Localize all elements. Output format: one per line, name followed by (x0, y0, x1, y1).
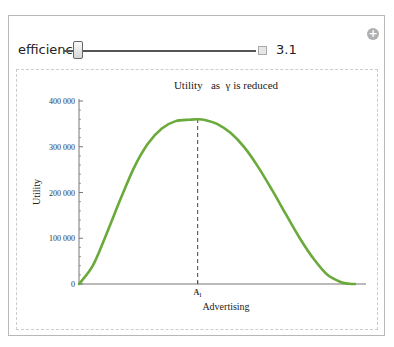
chart-title: Utility as γ is reduced (174, 79, 279, 91)
y-tick-label: 100 000 (49, 234, 75, 243)
x-tick-label: A₁ (194, 288, 203, 297)
utility-chart: Utility as γ is reduced Advertising Util… (0, 0, 394, 347)
x-axis-label: Advertising (202, 301, 249, 312)
utility-curve (79, 119, 355, 284)
y-tick-label: 400 000 (49, 97, 75, 106)
y-axis-label: Utility (31, 179, 42, 205)
y-tick-label: 200 000 (49, 189, 75, 198)
y-tick-label: 300 000 (49, 143, 75, 152)
y-tick-label: 0 (71, 280, 75, 289)
